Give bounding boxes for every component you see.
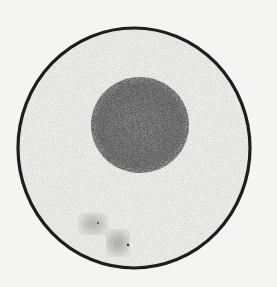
nucleus-texture bbox=[91, 77, 189, 173]
cell-micrograph bbox=[0, 0, 277, 287]
smudge-dot bbox=[127, 244, 129, 246]
smudge-dot bbox=[97, 222, 99, 224]
smudge bbox=[81, 215, 105, 233]
smudge bbox=[108, 232, 128, 254]
